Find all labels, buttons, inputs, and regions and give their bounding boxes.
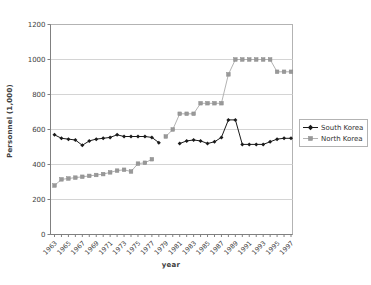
data-point-north-korea	[122, 168, 126, 172]
x-tick-label: 1979	[153, 239, 170, 256]
south-korea-line-marker-icon	[302, 124, 319, 131]
data-point-north-korea	[268, 58, 272, 62]
data-point-north-korea	[178, 112, 182, 116]
x-tick-label: 1989	[222, 239, 239, 256]
data-point-north-korea	[247, 58, 251, 62]
data-point-south-korea	[206, 142, 210, 146]
data-point-south-korea	[94, 137, 98, 141]
x-tick-label: 1993	[250, 239, 267, 256]
data-point-south-korea	[233, 118, 237, 122]
data-point-south-korea	[268, 140, 272, 144]
data-point-north-korea	[74, 176, 78, 180]
data-point-south-korea	[53, 133, 57, 137]
x-tick-label: 1967	[69, 239, 86, 256]
data-point-south-korea	[226, 118, 230, 122]
x-tick-label: 1965	[55, 239, 72, 256]
data-point-south-korea	[254, 142, 258, 146]
data-point-north-korea	[220, 101, 224, 105]
data-point-north-korea	[164, 135, 168, 139]
data-point-north-korea	[227, 73, 231, 77]
x-tick-label: 1991	[236, 239, 253, 256]
x-tick-label: 1983	[181, 239, 198, 256]
data-point-north-korea	[254, 58, 258, 62]
data-point-north-korea	[150, 157, 154, 161]
y-tick-label: 1200	[28, 21, 46, 29]
x-tick-label: 1973	[111, 239, 128, 256]
data-point-north-korea	[94, 173, 98, 177]
x-tick-label: 1963	[42, 239, 59, 256]
data-point-north-korea	[192, 112, 196, 116]
x-tick-label: 1969	[83, 239, 100, 256]
x-tick-label: 1977	[139, 239, 156, 256]
data-point-south-korea	[192, 138, 196, 142]
data-point-north-korea	[143, 161, 147, 165]
y-tick-label: 400	[32, 161, 45, 169]
legend-label-south-korea: South Korea	[321, 124, 363, 132]
data-point-south-korea	[185, 139, 189, 143]
data-point-north-korea	[213, 101, 217, 105]
series-line-north-korea	[166, 60, 291, 137]
data-point-north-korea	[261, 58, 265, 62]
x-tick-label: 1987	[208, 239, 225, 256]
x-tick-label: 1975	[125, 239, 142, 256]
y-tick-label: 600	[32, 126, 45, 134]
data-point-north-korea	[81, 175, 85, 179]
y-axis-title: Personnel (1,000)	[6, 76, 14, 166]
data-point-south-korea	[143, 135, 147, 139]
data-point-north-korea	[87, 174, 91, 178]
data-point-south-korea	[240, 142, 244, 146]
data-point-north-korea	[60, 178, 64, 182]
data-point-north-korea	[171, 128, 175, 132]
data-point-south-korea	[247, 142, 251, 146]
data-point-north-korea	[199, 101, 203, 105]
data-point-north-korea	[67, 177, 71, 181]
data-point-north-korea	[282, 70, 286, 74]
data-point-south-korea	[115, 133, 119, 137]
legend-label-north-korea: North Korea	[321, 135, 363, 143]
data-point-north-korea	[53, 184, 57, 188]
legend-item-south-korea: South Korea	[302, 122, 363, 133]
data-point-north-korea	[275, 70, 279, 74]
y-tick-label: 200	[32, 196, 45, 204]
data-point-south-korea	[122, 135, 126, 139]
data-point-north-korea	[185, 112, 189, 116]
data-point-north-korea	[115, 169, 119, 173]
data-point-south-korea	[282, 136, 286, 140]
x-tick-label: 1985	[195, 239, 212, 256]
data-point-north-korea	[129, 170, 133, 174]
data-point-south-korea	[129, 135, 133, 139]
data-point-north-korea	[234, 58, 238, 62]
data-point-south-korea	[101, 136, 105, 140]
legend: South Korea North Korea	[299, 119, 368, 147]
x-tick-label: 1997	[278, 239, 295, 256]
y-tick-label: 1000	[28, 56, 46, 64]
chart-container: 0200400600800100012001963196519671969197…	[0, 0, 371, 285]
data-point-north-korea	[108, 171, 112, 175]
data-point-north-korea	[136, 162, 140, 166]
data-point-south-korea	[199, 139, 203, 143]
legend-item-north-korea: North Korea	[302, 133, 363, 144]
y-tick-label: 0	[41, 231, 45, 239]
y-tick-label: 800	[32, 91, 45, 99]
x-tick-label: 1995	[264, 239, 281, 256]
x-tick-label: 1981	[167, 239, 184, 256]
data-point-south-korea	[261, 142, 265, 146]
data-point-south-korea	[136, 135, 140, 139]
data-point-south-korea	[66, 137, 70, 141]
x-tick-label: 1971	[97, 239, 114, 256]
data-point-north-korea	[289, 70, 293, 74]
data-point-north-korea	[241, 58, 245, 62]
data-point-south-korea	[178, 142, 182, 146]
data-point-south-korea	[275, 137, 279, 141]
x-axis-title: year	[131, 261, 211, 269]
data-point-north-korea	[206, 101, 210, 105]
data-point-south-korea	[108, 135, 112, 139]
data-point-north-korea	[101, 172, 105, 176]
north-korea-line-marker-icon	[302, 135, 319, 142]
series-line-south-korea	[180, 120, 291, 144]
data-point-south-korea	[59, 136, 63, 140]
